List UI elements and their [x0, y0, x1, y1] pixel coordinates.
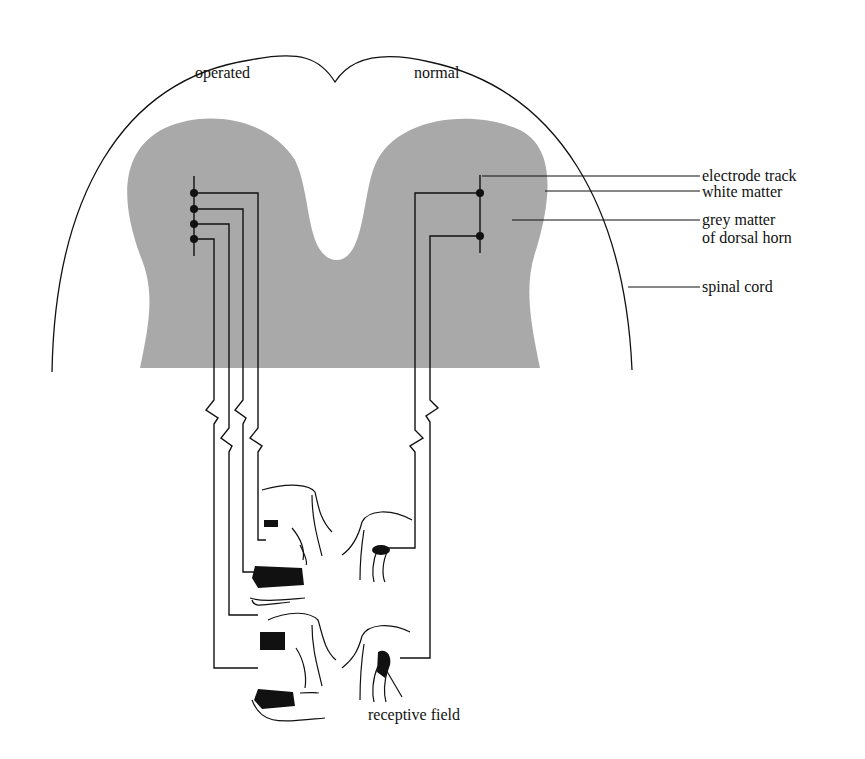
- receptive-field-normal-1: [372, 545, 390, 555]
- cat-operated-3: [268, 613, 336, 688]
- callout-electrode-track: electrode track: [702, 167, 797, 185]
- grey-matter-shape: [127, 118, 547, 368]
- receptive-field-operated-1: [264, 520, 278, 527]
- label-receptive-field: receptive field: [368, 706, 460, 724]
- receptive-field-operated-3: [260, 632, 285, 650]
- callout-grey-matter: grey matter of dorsal horn: [702, 211, 792, 247]
- receptive-field-operated-4: [254, 689, 295, 709]
- callout-white-matter: white matter: [702, 183, 782, 201]
- cat-normal-2: [342, 626, 410, 702]
- receptive-field-operated-2: [252, 566, 304, 588]
- label-normal: normal: [414, 64, 459, 82]
- cat-operated-2: [250, 598, 305, 605]
- label-operated: operated: [195, 64, 250, 82]
- spinal-cord-diagram: [0, 0, 865, 759]
- callout-spinal-cord: spinal cord: [702, 278, 773, 296]
